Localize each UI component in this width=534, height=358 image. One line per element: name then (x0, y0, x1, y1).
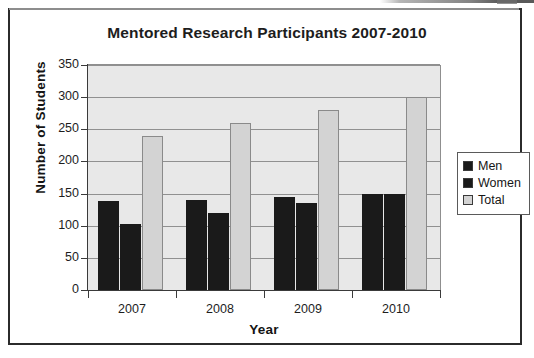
chart-legend: MenWomenTotal (457, 152, 530, 215)
bar-total-2007 (142, 136, 163, 290)
bar-group-2008 (186, 65, 251, 290)
bar-men-2010 (362, 194, 383, 290)
x-axis-title: Year (88, 322, 440, 337)
x-tick-label-2009: 2009 (264, 302, 352, 316)
bar-total-2008 (230, 123, 251, 290)
bar-women-2007 (120, 224, 141, 290)
x-tick-label-2007: 2007 (88, 302, 176, 316)
x-tick-mark-0 (88, 291, 89, 298)
bar-total-2010 (406, 97, 427, 290)
legend-item-total[interactable]: Total (463, 192, 524, 208)
y-axis-title: Number of Students (33, 38, 48, 218)
y-tick-mark-350 (81, 65, 88, 66)
legend-label-total: Total (478, 193, 504, 207)
bar-women-2010 (384, 194, 405, 290)
chart-title: Mentored Research Participants 2007-2010 (10, 24, 524, 42)
y-tick-mark-300 (81, 97, 88, 98)
legend-item-men[interactable]: Men (463, 158, 524, 174)
bar-men-2008 (186, 200, 207, 290)
y-tick-mark-100 (81, 226, 88, 227)
scan-artifact-mark (497, 0, 517, 4)
legend-label-women: Women (478, 176, 521, 190)
legend-item-women[interactable]: Women (463, 175, 524, 191)
y-tick-label-100: 100 (33, 218, 79, 232)
legend-swatch-women-icon (463, 178, 473, 188)
bar-group-2007 (98, 65, 163, 290)
x-tick-mark-1 (176, 291, 177, 298)
y-tick-mark-250 (81, 129, 88, 130)
legend-label-men: Men (478, 159, 502, 173)
y-tick-mark-50 (81, 258, 88, 259)
scan-artifact-top-edge (0, 0, 534, 3)
legend-swatch-men-icon (463, 161, 473, 171)
y-axis-line (87, 64, 88, 291)
bar-group-2010 (362, 65, 427, 290)
chart-figure-frame: Mentored Research Participants 2007-2010… (8, 8, 522, 345)
bar-women-2009 (296, 203, 317, 290)
x-tick-mark-4 (440, 291, 441, 298)
y-tick-mark-0 (81, 290, 88, 291)
bar-women-2008 (208, 213, 229, 290)
bar-group-2009 (274, 65, 339, 290)
bar-men-2009 (274, 197, 295, 290)
x-tick-mark-2 (264, 291, 265, 298)
bar-men-2007 (98, 201, 119, 290)
y-tick-label-50: 50 (33, 250, 79, 264)
legend-swatch-total-icon (463, 195, 473, 205)
y-tick-mark-150 (81, 194, 88, 195)
x-tick-label-2008: 2008 (176, 302, 264, 316)
x-tick-mark-3 (352, 291, 353, 298)
x-tick-label-2010: 2010 (352, 302, 440, 316)
y-tick-mark-200 (81, 161, 88, 162)
bar-total-2009 (318, 110, 339, 290)
y-tick-label-0: 0 (33, 282, 79, 296)
